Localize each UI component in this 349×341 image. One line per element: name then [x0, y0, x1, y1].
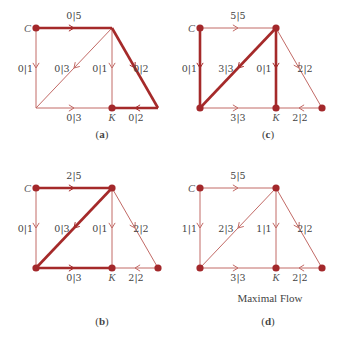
edge-label-bottom: 3|3: [230, 272, 245, 284]
edge-label-right: 0|2: [133, 63, 148, 75]
node-dot-c: [32, 24, 39, 31]
panel-c: 5|50|13|30|12|23|32|2CK(c): [182, 10, 326, 141]
edge-label-left: 0|1: [18, 223, 33, 235]
edge-label-top: 5|5: [230, 10, 245, 22]
panel-d: 5|51|12|31|12|23|32|2CKMaximal Flow(d): [182, 170, 326, 328]
edge-label-diag: 2|3: [218, 223, 233, 235]
edge-label-bottom: 3|3: [230, 112, 245, 124]
panel-title: Maximal Flow: [237, 292, 302, 304]
edge-label-br: 2|2: [292, 272, 307, 284]
node-dot-c: [196, 184, 203, 191]
node-dot-r: [318, 264, 325, 271]
edge-label-br: 2|2: [292, 112, 307, 124]
node-dot-tr: [272, 184, 279, 191]
edge-label-mid: 0|1: [256, 63, 271, 75]
node-dot-tr: [272, 24, 279, 31]
panel-caption: (d): [261, 315, 275, 328]
panel-caption: (c): [262, 128, 275, 141]
edge-label-right: 2|2: [297, 223, 312, 235]
edge-label-diag: 0|3: [54, 63, 69, 75]
node-label-k: K: [271, 112, 280, 123]
node-label-k: K: [107, 112, 116, 123]
node-label-c: C: [188, 183, 196, 194]
edge-label-br: 2|2: [128, 272, 143, 284]
edge-label-diag: 0|3: [54, 223, 69, 235]
edge-label-top: 0|5: [66, 10, 81, 22]
node-dot-bl: [196, 104, 203, 111]
node-label-c: C: [24, 23, 32, 34]
edge-label-mid: 0|1: [92, 223, 107, 235]
edge-label-mid: 0|1: [92, 63, 107, 75]
node-dot-bl: [32, 264, 39, 271]
edge-label-top: 5|5: [230, 170, 245, 182]
edge-label-left: 1|1: [182, 223, 197, 235]
panel-a: 0|50|10|30|10|20|30|2CK(a): [18, 10, 158, 141]
edge-label-right: 2|2: [133, 223, 148, 235]
node-dot-tr: [108, 184, 115, 191]
node-dot-k: [108, 104, 115, 111]
panel-caption: (b): [95, 315, 109, 328]
edge-label-top: 2|5: [66, 170, 81, 182]
node-label-c: C: [188, 23, 196, 34]
edge-label-bottom: 0|3: [66, 272, 81, 284]
node-dot-c: [32, 184, 39, 191]
edge-label-mid: 1|1: [256, 223, 271, 235]
panel-caption: (a): [96, 128, 109, 141]
node-label-k: K: [107, 272, 116, 283]
node-dot-k: [272, 264, 279, 271]
flow-network-figure: 0|50|10|30|10|20|30|2CK(a)5|50|13|30|12|…: [0, 0, 349, 341]
node-label-k: K: [271, 272, 280, 283]
node-dot-r: [318, 104, 325, 111]
node-dot-k: [272, 104, 279, 111]
node-dot-r: [154, 264, 161, 271]
edge-label-diag: 3|3: [218, 63, 233, 75]
panel-b: 2|50|10|30|12|20|32|2CK(b): [18, 170, 162, 328]
node-label-c: C: [24, 183, 32, 194]
edge-label-left: 0|1: [182, 63, 197, 75]
edge-label-bottom: 0|3: [66, 112, 81, 124]
node-dot-bl: [196, 264, 203, 271]
edge-label-right: 2|2: [297, 63, 312, 75]
node-dot-k: [108, 264, 115, 271]
edge-label-left: 0|1: [18, 63, 33, 75]
node-dot-c: [196, 24, 203, 31]
edge-label-br: 0|2: [128, 112, 143, 124]
